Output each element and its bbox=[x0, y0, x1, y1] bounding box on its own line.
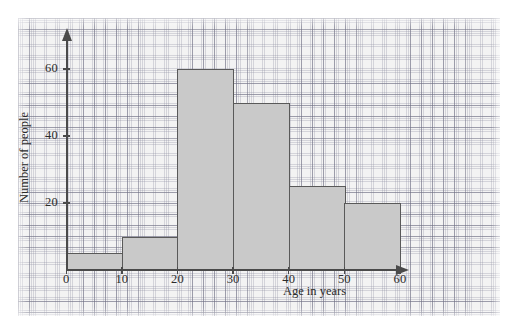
y-axis-title: Number of people bbox=[17, 98, 32, 218]
y-axis-tick-label: 60 bbox=[24, 61, 58, 76]
histogram-figure: 20 40 60 0 10 20 30 40 50 60 Age in year… bbox=[0, 0, 519, 334]
histogram-bar bbox=[122, 237, 179, 271]
plot-area: 20 40 60 0 10 20 30 40 50 60 Age in year… bbox=[0, 0, 519, 334]
histogram-bar bbox=[233, 103, 290, 271]
histogram-bar bbox=[66, 253, 123, 270]
histogram-bar bbox=[289, 186, 346, 270]
y-axis-arrow-icon bbox=[62, 28, 72, 41]
y-axis-line bbox=[66, 36, 68, 271]
histogram-bar bbox=[344, 203, 401, 270]
histogram-bar bbox=[177, 69, 234, 270]
y-axis-tick bbox=[63, 135, 70, 136]
y-axis-tick bbox=[63, 202, 70, 203]
y-axis-tick bbox=[63, 68, 70, 69]
x-axis-title: Age in years bbox=[0, 284, 519, 299]
